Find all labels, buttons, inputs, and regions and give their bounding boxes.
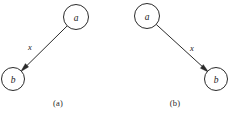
panel-a-caption: (a)	[0, 98, 116, 108]
graph-a: a b x	[0, 0, 116, 98]
node-a-label: a	[74, 13, 79, 23]
panel-b-caption: (b)	[117, 98, 233, 108]
node-b-label: b	[214, 75, 219, 85]
diagram-panel-b: a b x (b)	[117, 0, 233, 115]
node-a-label: a	[145, 12, 150, 22]
graph-b: a b x	[117, 0, 233, 98]
edge-label-x: x	[189, 43, 194, 53]
figure-canvas: a b x (a) a b x (b)	[0, 0, 233, 115]
edge-label-x: x	[27, 42, 32, 52]
node-b-label: b	[11, 75, 16, 85]
edge-a-to-b-line	[156, 24, 207, 70]
diagram-panel-a: a b x (a)	[0, 0, 116, 115]
